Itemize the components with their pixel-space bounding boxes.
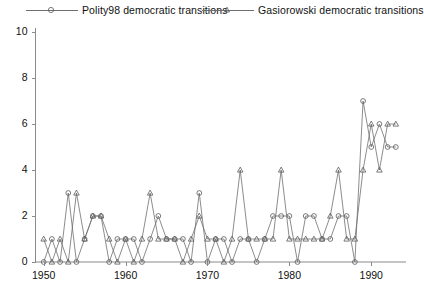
- x-tick: [126, 262, 127, 266]
- data-point: [295, 236, 301, 241]
- data-point: [172, 236, 178, 241]
- data-point: [311, 236, 317, 241]
- y-tick: [32, 262, 36, 263]
- y-tick: [32, 216, 36, 217]
- x-tick-label: 1990: [349, 269, 393, 281]
- data-point: [303, 236, 309, 241]
- y-tick: [32, 78, 36, 79]
- data-point: [393, 121, 399, 126]
- y-tick-label: 4: [0, 163, 28, 175]
- data-point: [90, 213, 96, 218]
- x-tick: [207, 262, 208, 266]
- x-tick: [44, 262, 45, 266]
- y-tick-label: 8: [0, 71, 28, 83]
- y-tick-label: 10: [0, 25, 28, 37]
- x-tick-label: 1950: [22, 269, 66, 281]
- series-markers-1: [41, 121, 399, 264]
- y-tick: [32, 32, 36, 33]
- y-tick-label: 0: [0, 255, 28, 267]
- x-tick-label: 1970: [185, 269, 229, 281]
- y-tick-label: 2: [0, 209, 28, 221]
- data-point: [41, 236, 47, 241]
- y-tick: [32, 170, 36, 171]
- x-tick-label: 1960: [104, 269, 148, 281]
- data-point: [213, 236, 219, 241]
- x-tick: [371, 262, 372, 266]
- data-point: [254, 236, 260, 241]
- x-tick: [289, 262, 290, 266]
- y-tick-label: 6: [0, 117, 28, 129]
- series-line-0: [44, 101, 396, 262]
- y-tick: [32, 124, 36, 125]
- x-tick-label: 1980: [267, 269, 311, 281]
- series-line-1: [44, 124, 396, 262]
